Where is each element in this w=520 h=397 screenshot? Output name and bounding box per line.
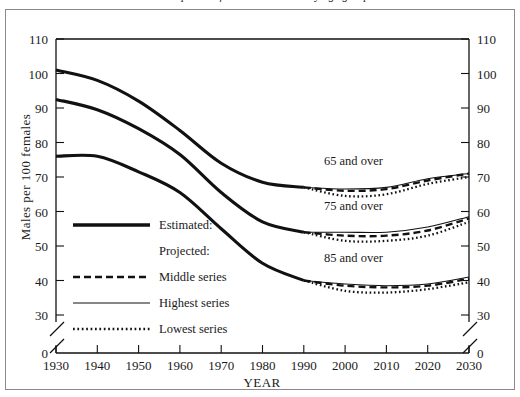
axis-break-left-upper: [50, 322, 64, 336]
line-chart: 110 100 90 80 70 60 50 40 30 0: [6, 10, 514, 389]
y-tick-right-90: 90: [477, 101, 490, 116]
x-tick-1990: 1990: [291, 358, 317, 373]
series-group-65-and-over: [56, 70, 469, 196]
y-tick-left-100: 100: [29, 67, 49, 82]
y-tick-left-80: 80: [35, 136, 48, 151]
y-tick-right-100: 100: [477, 67, 497, 82]
axis-break-right-lower: [463, 339, 477, 353]
y-axis-left-ticks: 110 100 90 80 70 60 50 40 30 0: [29, 32, 65, 361]
y-tick-left-40: 40: [35, 274, 48, 289]
y-tick-right-40: 40: [477, 274, 490, 289]
legend-label-lowest-series: Lowest series: [159, 322, 228, 336]
legend-label-highest-series: Highest series: [159, 296, 230, 310]
annotation-75-and-over: 75 and over: [324, 199, 384, 213]
y-tick-right-70: 70: [477, 170, 490, 185]
y-tick-left-50: 50: [35, 239, 48, 254]
y-tick-right-110: 110: [477, 32, 496, 47]
y-axis-title: Males per 100 females: [18, 114, 33, 240]
figure-page: Males per 100 females in the U.S. by age…: [0, 0, 520, 397]
x-tick-1960: 1960: [167, 358, 193, 373]
caption-strip: Males per 100 females in the U.S. by age…: [0, 0, 520, 9]
estimated-line-75-and-over: [56, 99, 304, 232]
y-tick-right-50: 50: [477, 239, 490, 254]
chart-legend: Estimated: Projected: Middle series High…: [73, 218, 230, 336]
y-tick-right-80: 80: [477, 136, 490, 151]
legend-label-estimated: Estimated:: [159, 218, 212, 232]
x-tick-1940: 1940: [84, 358, 110, 373]
y-tick-left-110: 110: [29, 32, 48, 47]
x-axis-title: YEAR: [244, 375, 281, 389]
projected-middle-line-75-and-over: [304, 218, 469, 236]
x-axis-ticks: 1930 1940 1950 1960 1970 1980 1990 2000 …: [43, 345, 482, 373]
legend-label-middle-series: Middle series: [159, 270, 227, 284]
figure-caption: Males per 100 females in the U.S. by age…: [0, 0, 520, 1]
y-tick-left-30: 30: [35, 308, 48, 323]
axis-break-left-lower: [50, 339, 64, 353]
y-tick-left-90: 90: [35, 101, 48, 116]
legend-label-projected: Projected:: [159, 244, 210, 258]
annotation-85-and-over: 85 and over: [324, 251, 384, 265]
y-tick-left-60: 60: [35, 205, 48, 220]
y-tick-left-70: 70: [35, 170, 48, 185]
axis-break-right-upper: [463, 322, 477, 336]
series-annotations: 65 and over 75 and over 85 and over: [324, 154, 384, 265]
x-tick-1970: 1970: [208, 358, 234, 373]
projected-highest-line-75-and-over: [304, 217, 469, 233]
x-tick-2010: 2010: [373, 358, 399, 373]
x-tick-2030: 2030: [456, 358, 482, 373]
x-tick-2020: 2020: [415, 358, 441, 373]
estimated-line-65-and-over: [56, 70, 304, 187]
x-tick-1930: 1930: [43, 358, 69, 373]
y-tick-right-60: 60: [477, 205, 490, 220]
y-tick-right-30: 30: [477, 308, 490, 323]
x-tick-1950: 1950: [126, 358, 152, 373]
projected-lowest-line-65-and-over: [304, 177, 469, 196]
annotation-65-and-over: 65 and over: [324, 154, 384, 168]
x-tick-1980: 1980: [250, 358, 276, 373]
y-axis-right-ticks: 110 100 90 80 70 60 50 40 30 0: [461, 32, 497, 361]
x-tick-2000: 2000: [332, 358, 358, 373]
figure-frame: 110 100 90 80 70 60 50 40 30 0: [5, 9, 515, 390]
series-group-75-and-over: [56, 99, 469, 241]
